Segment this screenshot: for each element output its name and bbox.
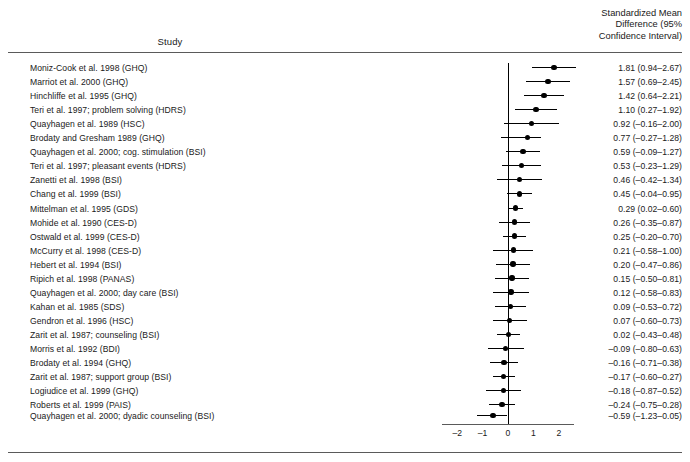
- study-label: Chang et al. 1999 (BSI): [30, 187, 121, 201]
- effect-estimate-marker: [512, 233, 517, 238]
- x-axis-tick-label: 2: [549, 428, 569, 438]
- forest-row: Logiudice et al. 1999 (GHQ)–0.18 (–0.87–…: [0, 384, 690, 398]
- study-label: Zarit et al. 1987; counseling (BSI): [30, 328, 159, 342]
- effect-value-text: –0.17 (–0.60–0.27): [608, 370, 682, 384]
- effect-value-text: 1.10 (0.27–1.92): [618, 103, 682, 117]
- effect-estimate-marker: [517, 191, 522, 196]
- study-label: Morris et al. 1992 (BDI): [30, 342, 120, 356]
- forest-row: Hinchliffe et al. 1995 (GHQ)1.42 (0.64–2…: [0, 89, 690, 103]
- effect-value-text: 1.57 (0.69–2.45): [618, 75, 682, 89]
- forest-row: Mohide et al. 1990 (CES-D)0.26 (–0.35–0.…: [0, 216, 690, 230]
- effect-estimate-marker: [511, 247, 516, 252]
- effect-value-text: 0.77 (–0.27–1.28): [613, 131, 682, 145]
- study-label: Marriot et al. 2000 (GHQ): [30, 75, 128, 89]
- effect-estimate-marker: [533, 107, 538, 112]
- study-label: Ripich et al. 1998 (PANAS): [30, 272, 134, 286]
- forest-row: Brodaty and Gresham 1989 (GHQ)0.77 (–0.2…: [0, 131, 690, 145]
- effect-value-text: 0.45 (–0.04–0.95): [613, 187, 682, 201]
- forest-row: Morris et al. 1992 (BDI)–0.09 (–0.80–0.6…: [0, 342, 690, 356]
- column-header-smd-line-3: Confidence Interval): [492, 31, 682, 42]
- effect-value-text: 0.53 (–0.23–1.29): [613, 159, 682, 173]
- effect-estimate-marker: [512, 219, 517, 224]
- effect-value-text: 0.20 (–0.47–0.86): [613, 258, 682, 272]
- effect-estimate-marker: [490, 413, 495, 418]
- effect-value-text: 0.92 (–0.16–2.00): [613, 117, 682, 131]
- study-label: Brodaty and Gresham 1989 (GHQ): [30, 131, 165, 145]
- forest-row: Ripich et al. 1998 (PANAS)0.15 (–0.50–0.…: [0, 272, 690, 286]
- forest-row: Hebert et al. 1994 (BSI)0.20 (–0.47–0.86…: [0, 258, 690, 272]
- study-label: Kahan et al. 1985 (SDS): [30, 300, 124, 314]
- effect-value-text: 1.42 (0.64–2.21): [618, 89, 682, 103]
- effect-estimate-marker: [508, 304, 513, 309]
- forest-row: Gendron et al. 1996 (HSC)0.07 (–0.60–0.7…: [0, 314, 690, 328]
- study-label: Hinchliffe et al. 1995 (GHQ): [30, 89, 137, 103]
- effect-value-text: 1.81 (0.94–2.67): [618, 61, 682, 75]
- effect-estimate-marker: [551, 65, 556, 70]
- effect-value-text: 0.09 (–0.53–0.72): [613, 300, 682, 314]
- effect-value-text: –0.16 (–0.71–0.38): [608, 356, 682, 370]
- effect-value-text: 0.15 (–0.50–0.81): [613, 272, 682, 286]
- x-axis-tick-label: 0: [498, 428, 518, 438]
- study-label: Quayhagen et al. 2000; dyadic counseling…: [30, 409, 214, 423]
- forest-row: Teri et al. 1997; problem solving (HDRS)…: [0, 103, 690, 117]
- study-label: Zanetti et al. 1998 (BSI): [30, 173, 122, 187]
- effect-estimate-marker: [503, 346, 508, 351]
- study-label: Logiudice et al. 1999 (GHQ): [30, 384, 138, 398]
- effect-estimate-marker: [509, 275, 514, 280]
- effect-estimate-marker: [513, 205, 518, 210]
- header-divider: [8, 52, 682, 53]
- effect-estimate-marker: [506, 332, 511, 337]
- forest-row: Chang et al. 1999 (BSI)0.45 (–0.04–0.95): [0, 187, 690, 201]
- x-axis-line: [442, 424, 574, 425]
- effect-estimate-marker: [520, 149, 525, 154]
- effect-estimate-marker: [529, 121, 534, 126]
- forest-row: Teri et al. 1997; pleasant events (HDRS)…: [0, 159, 690, 173]
- column-header-study: Study: [30, 36, 310, 47]
- effect-estimate-marker: [510, 261, 515, 266]
- forest-row: Mittelman et al. 1995 (GDS)0.29 (0.02–0.…: [0, 202, 690, 216]
- forest-row: Moniz-Cook et al. 1998 (GHQ)1.81 (0.94–2…: [0, 61, 690, 75]
- column-header-smd-line-1: Standardized Mean: [492, 8, 682, 19]
- effect-value-text: –0.18 (–0.87–0.52): [608, 384, 682, 398]
- effect-estimate-marker: [508, 289, 513, 294]
- effect-value-text: 0.59 (–0.09–1.27): [613, 145, 682, 159]
- x-axis-tick-label: –2: [447, 428, 467, 438]
- forest-row: Zanetti et al. 1998 (BSI)0.46 (–0.42–1.3…: [0, 173, 690, 187]
- study-label: Teri et al. 1997; pleasant events (HDRS): [30, 159, 186, 173]
- effect-value-text: 0.21 (–0.58–1.00): [613, 244, 682, 258]
- forest-row: Quayhagen et al. 1989 (HSC)0.92 (–0.16–2…: [0, 117, 690, 131]
- forest-row: Zarit et al. 1987; support group (BSI)–0…: [0, 370, 690, 384]
- effect-value-text: 0.26 (–0.35–0.87): [613, 216, 682, 230]
- effect-estimate-marker: [501, 374, 506, 379]
- effect-value-text: 0.29 (0.02–0.60): [618, 202, 682, 216]
- effect-estimate-marker: [517, 177, 522, 182]
- forest-row: McCurry et al. 1998 (CES-D)0.21 (–0.58–1…: [0, 244, 690, 258]
- effect-value-text: –0.59 (–1.23–0.05): [608, 409, 682, 423]
- effect-value-text: 0.12 (–0.58–0.83): [613, 286, 682, 300]
- study-label: Hebert et al. 1994 (BSI): [30, 258, 121, 272]
- forest-row: Ostwald et al. 1999 (CES-D)0.25 (–0.20–0…: [0, 230, 690, 244]
- effect-value-text: –0.09 (–0.80–0.63): [608, 342, 682, 356]
- effect-estimate-marker: [501, 388, 506, 393]
- forest-row: Quayhagen et al. 2000; cog. stimulation …: [0, 145, 690, 159]
- effect-estimate-marker: [545, 79, 550, 84]
- effect-estimate-marker: [507, 318, 512, 323]
- column-header-smd-line-2: Difference (95%: [492, 19, 682, 30]
- table-header: Study Standardized Mean Difference (95% …: [0, 0, 690, 52]
- effect-estimate-marker: [541, 93, 546, 98]
- effect-estimate-marker: [501, 360, 506, 365]
- confidence-interval-line: [501, 137, 540, 138]
- study-label: Zarit et al. 1987; support group (BSI): [30, 370, 171, 384]
- forest-row: Brodaty et al. 1994 (GHQ)–0.16 (–0.71–0.…: [0, 356, 690, 370]
- forest-row: Zarit et al. 1987; counseling (BSI)0.02 …: [0, 328, 690, 342]
- study-label: Gendron et al. 1996 (HSC): [30, 314, 133, 328]
- study-label: Moniz-Cook et al. 1998 (GHQ): [30, 61, 147, 75]
- effect-estimate-marker: [525, 135, 530, 140]
- study-label: Brodaty et al. 1994 (GHQ): [30, 356, 131, 370]
- study-label: Ostwald et al. 1999 (CES-D): [30, 230, 140, 244]
- study-label: Mohide et al. 1990 (CES-D): [30, 216, 137, 230]
- study-label: McCurry et al. 1998 (CES-D): [30, 244, 141, 258]
- x-axis-tick-label: 1: [523, 428, 543, 438]
- forest-row: Marriot et al. 2000 (GHQ)1.57 (0.69–2.45…: [0, 75, 690, 89]
- footer-divider: [8, 452, 682, 453]
